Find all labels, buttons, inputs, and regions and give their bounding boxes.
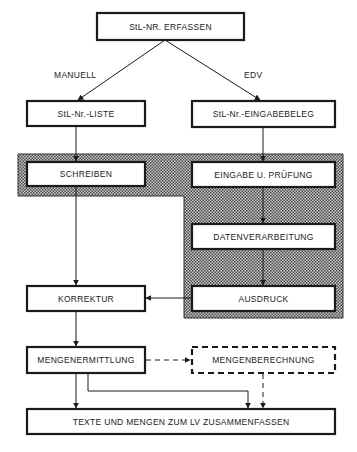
node-ausdruck-label: AUSDRUCK [238, 294, 288, 304]
node-mengenermittlung: MENGENERMITTLUNG [27, 347, 145, 373]
node-mengenberechnung: MENGENBERECHNUNG [192, 347, 335, 373]
node-eingabebeleg-label: StL-Nr.-EINGABEBELEG [213, 109, 314, 119]
node-mengenermittlung-label: MENGENERMITTLUNG [37, 355, 134, 365]
node-korrektur: KORREKTUR [27, 286, 145, 311]
edge-label-edv: EDV [244, 70, 262, 80]
node-zusammenfassen: TEXTE UND MENGEN ZUM LV ZUSAMMENFASSEN [27, 409, 335, 434]
node-eingabe-pruefung: EINGABE U. PRÜFUNG [192, 162, 335, 187]
edge-label-manuell: MANUELL [54, 70, 96, 80]
node-ausdruck: AUSDRUCK [192, 286, 335, 311]
node-datenverarbeitung: DATENVERARBEITUNG [192, 224, 335, 249]
node-korrektur-label: KORREKTUR [58, 294, 114, 304]
node-liste: StL-Nr.-LISTE [27, 101, 145, 126]
node-zusammenfassen-label: TEXTE UND MENGEN ZUM LV ZUSAMMENFASSEN [73, 417, 290, 427]
flow-diagram: MANUELL EDV StL-NR. ERFASSEN StL-Nr.-LIS… [0, 0, 357, 452]
node-mengenberechnung-label: MENGENBERECHNUNG [212, 355, 315, 365]
node-eingabebeleg: StL-Nr.-EINGABEBELEG [192, 101, 335, 127]
node-schreiben: SCHREIBEN [27, 162, 145, 186]
edge-mengenermittlung-zusammenfassen-right [88, 374, 248, 408]
node-erfassen: StL-NR. ERFASSEN [97, 13, 244, 40]
node-eingabe-pruefung-label: EINGABE U. PRÜFUNG [214, 170, 312, 180]
node-datenverarbeitung-label: DATENVERARBEITUNG [213, 232, 313, 242]
node-erfassen-label: StL-NR. ERFASSEN [129, 22, 212, 32]
node-liste-label: StL-Nr.-LISTE [58, 109, 115, 119]
node-schreiben-label: SCHREIBEN [60, 169, 112, 179]
